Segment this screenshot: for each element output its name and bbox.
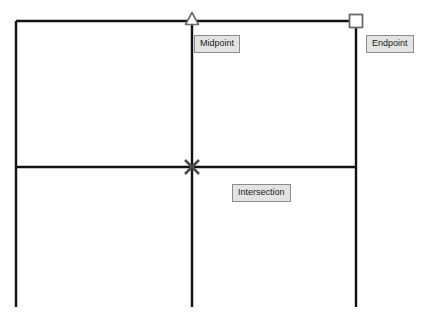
drawing-canvas[interactable]: Midpoint Endpoint Intersection	[0, 0, 426, 325]
snap-label-intersection: Intersection	[232, 184, 291, 202]
snap-label-midpoint: Midpoint	[194, 35, 240, 53]
snap-label-endpoint: Endpoint	[366, 35, 414, 53]
grid-lines	[16, 21, 356, 307]
midpoint-triangle-icon[interactable]	[186, 13, 199, 25]
endpoint-square-icon[interactable]	[350, 15, 363, 28]
